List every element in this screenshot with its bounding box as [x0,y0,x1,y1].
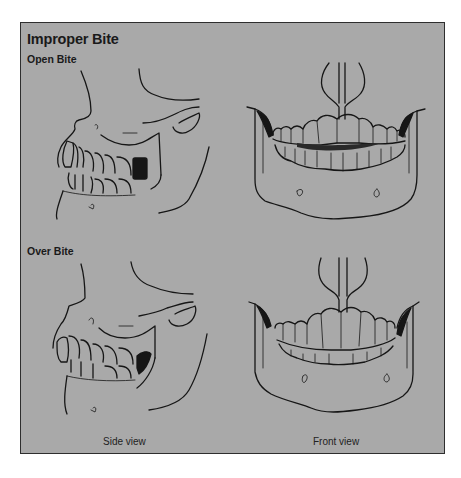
side-view-label: Side view [103,436,146,447]
over-bite-side-view-illustration [39,258,219,423]
figure-title: Improper Bite [27,31,119,47]
front-view-label: Front view [313,436,359,447]
improper-bite-figure: Improper Bite Open Bite Over Bite [20,22,445,454]
over-bite-front-view-illustration [241,258,441,428]
section-label-over-bite: Over Bite [27,245,74,257]
open-bite-side-view-illustration [39,63,219,228]
open-bite-front-view-illustration [241,63,441,233]
